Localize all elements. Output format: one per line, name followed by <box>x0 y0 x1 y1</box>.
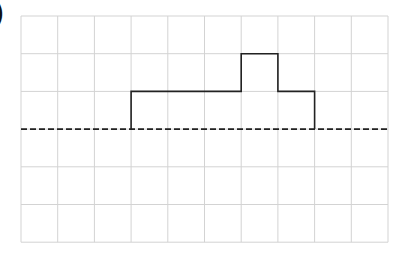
grid-diagram <box>0 0 403 262</box>
step-outline <box>131 54 315 129</box>
